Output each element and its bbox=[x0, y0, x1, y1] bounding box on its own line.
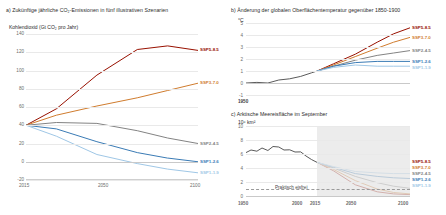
panel-a-ytick: -20 bbox=[4, 177, 24, 182]
panel-c-xtick: 2050 bbox=[346, 201, 356, 206]
panel-c-plot bbox=[246, 126, 410, 196]
panel-c-scenario-label-ssp2-45: SSP2-4.5 bbox=[412, 171, 431, 176]
panel-b-scenario-label-ssp1-19: SSP1-1.9 bbox=[412, 65, 431, 70]
series-line-ssp5-85 bbox=[26, 46, 198, 125]
panel-c-scenario-label-ssp1-19: SSP1-1.9 bbox=[412, 183, 431, 188]
panel-c-xtick: 2015 bbox=[310, 201, 320, 206]
panel-c-sea-ice: c) Arktische Meereisfläche im September … bbox=[226, 108, 446, 215]
panel-a-ytick: 100 bbox=[4, 68, 24, 73]
panel-a-scenario-label-ssp2-45: SSP2-4.5 bbox=[200, 141, 219, 146]
panel-c-title: c) Arktische Meereisfläche im September bbox=[231, 111, 327, 117]
panel-a-title: a) Zukünftige jährliche CO₂-Emissionen i… bbox=[6, 7, 168, 13]
panel-a-ytick: 20 bbox=[4, 141, 24, 146]
ice-free-threshold-line bbox=[246, 189, 410, 190]
panel-a-ytick: 140 bbox=[4, 31, 24, 36]
panel-b-scenario-label-ssp1-26: SSP1-2.6 bbox=[412, 59, 431, 64]
panel-c-ytick: 8 bbox=[228, 138, 243, 143]
gridline bbox=[246, 71, 410, 72]
gridline bbox=[26, 180, 198, 181]
gridline bbox=[246, 168, 410, 169]
panel-a-scenario-label-ssp1-26: SSP1-2.6 bbox=[200, 159, 219, 164]
panel-b-ytick: 1 bbox=[228, 69, 243, 74]
panel-a-scenario-label-ssp3-70: SSP3-7.0 bbox=[200, 80, 219, 85]
panel-a-scenario-label-ssp5-85: SSP5-8.5 bbox=[200, 47, 219, 52]
panel-c-xtick: 2100 bbox=[398, 201, 408, 206]
panel-b-scenario-label-ssp2-45: SSP2-4.5 bbox=[412, 48, 431, 53]
gridline bbox=[26, 89, 198, 90]
ice-free-annotation: Praktisch eisfrei bbox=[275, 185, 307, 190]
gridline bbox=[26, 107, 198, 108]
gridline bbox=[246, 196, 410, 197]
panel-a-plot bbox=[26, 34, 198, 180]
panel-a-xaxis bbox=[26, 179, 198, 180]
panel-b-scenario-label-ssp3-70: SSP3-7.0 bbox=[412, 35, 431, 40]
panel-a-ytick: 0 bbox=[4, 159, 24, 164]
gridline bbox=[246, 154, 410, 155]
panel-c-scenario-label-ssp3-70: SSP3-7.0 bbox=[412, 165, 431, 170]
panel-c-ytick: 4 bbox=[228, 166, 243, 171]
panel-b-ytick: -1 bbox=[228, 93, 243, 98]
panel-c-scenario-label-ssp5-85: SSP5-8.5 bbox=[412, 159, 431, 164]
gridline bbox=[246, 140, 410, 141]
gridline bbox=[246, 59, 410, 60]
panel-a-xtick: 2050 bbox=[98, 183, 108, 188]
gridline bbox=[246, 35, 410, 36]
panel-a-ytick: 60 bbox=[4, 104, 24, 109]
panel-a-ylabel: Kohlendioxid (Gt CO₂ pro Jahr) bbox=[9, 24, 78, 30]
panel-b-scenario-label-ssp5-85: SSP5-8.5 bbox=[412, 25, 431, 30]
panel-b-temperature: b) Änderung der globalen Oberflächentemp… bbox=[226, 0, 446, 108]
panel-c-ytick: 0 bbox=[228, 194, 243, 199]
gridline bbox=[26, 125, 198, 126]
series-line-ssp1-19 bbox=[26, 125, 198, 173]
gridline bbox=[246, 83, 410, 84]
panel-c-xtick: 1950 bbox=[238, 201, 248, 206]
gridline bbox=[246, 95, 410, 96]
panel-a-scenario-label-ssp1-19: SSP1-1.9 bbox=[200, 170, 219, 175]
panel-a-ytick: 120 bbox=[4, 49, 24, 54]
gridline bbox=[246, 182, 410, 183]
panel-b-ytick: 3 bbox=[228, 45, 243, 50]
panel-b-ytick: 0 bbox=[228, 81, 243, 86]
gridline bbox=[246, 23, 410, 24]
panel-a-ytick: 80 bbox=[4, 86, 24, 91]
series-line-historical bbox=[246, 71, 317, 83]
panel-a-xtick: 2100 bbox=[190, 183, 200, 188]
panel-c-ytick: 2 bbox=[228, 180, 243, 185]
panel-c-xtick: 2000 bbox=[292, 201, 302, 206]
gridline bbox=[26, 34, 198, 35]
panel-a-emissions: a) Zukünftige jährliche CO₂-Emissionen i… bbox=[0, 0, 226, 215]
panel-a-xtick: 2015 bbox=[19, 183, 29, 188]
panel-b-title: b) Änderung der globalen Oberflächentemp… bbox=[231, 7, 400, 13]
panel-b-xtick: 1950 bbox=[238, 99, 248, 104]
panel-b-ytick: 5 bbox=[228, 21, 243, 26]
gridline bbox=[26, 162, 198, 163]
gridline bbox=[246, 47, 410, 48]
panel-c-scenario-label-ssp1-26: SSP1-2.6 bbox=[412, 177, 431, 182]
gridline bbox=[26, 52, 198, 53]
gridline bbox=[26, 144, 198, 145]
panel-a-ytick: 40 bbox=[4, 122, 24, 127]
gridline bbox=[246, 126, 410, 127]
panel-b-ytick: 2 bbox=[228, 57, 243, 62]
panel-c-ytick: 10 bbox=[228, 124, 243, 129]
panel-b-ytick: 4 bbox=[228, 33, 243, 38]
panel-b-plot bbox=[246, 23, 410, 95]
projection-shading bbox=[317, 126, 410, 196]
gridline bbox=[26, 71, 198, 72]
panel-c-ytick: 6 bbox=[228, 152, 243, 157]
